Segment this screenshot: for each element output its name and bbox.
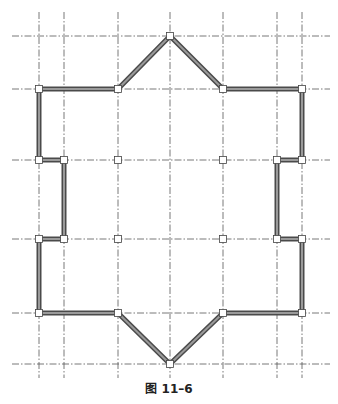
column-node — [115, 157, 122, 164]
column-node — [36, 157, 43, 164]
column-node — [299, 236, 306, 243]
column-node — [36, 310, 43, 317]
column-node — [299, 86, 306, 93]
column-node — [36, 86, 43, 93]
column-node — [36, 236, 43, 243]
column-node — [115, 310, 122, 317]
wall-outer-stroke — [39, 36, 302, 364]
column-node — [61, 236, 68, 243]
column-node — [299, 310, 306, 317]
column-node — [274, 157, 281, 164]
column-node — [220, 236, 227, 243]
column-nodes — [36, 33, 306, 368]
column-node — [61, 157, 68, 164]
floor-plan-diagram — [0, 0, 338, 404]
column-node — [167, 33, 174, 40]
column-node — [299, 157, 306, 164]
wall-outline — [39, 36, 302, 364]
column-node — [115, 236, 122, 243]
column-node — [220, 157, 227, 164]
axis-gridlines — [12, 12, 330, 378]
column-node — [167, 361, 174, 368]
column-node — [220, 310, 227, 317]
column-node — [274, 236, 281, 243]
column-node — [220, 86, 227, 93]
figure-caption: 图 11–6 — [0, 379, 338, 396]
column-node — [115, 86, 122, 93]
